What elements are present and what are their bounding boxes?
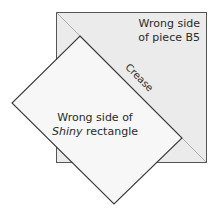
fold-diagram: Wrong side of piece B5 Crease Wrong side… — [0, 0, 222, 222]
rect-label-line1: Wrong side of — [57, 111, 134, 124]
rect-label-italic: Shiny — [52, 125, 83, 138]
rect-label-rest: rectangle — [83, 125, 139, 138]
rect-label-line2: Shiny rectangle — [52, 125, 138, 138]
piece-label-line2: of piece B5 — [138, 31, 200, 44]
piece-label-line1: Wrong side — [139, 17, 201, 30]
